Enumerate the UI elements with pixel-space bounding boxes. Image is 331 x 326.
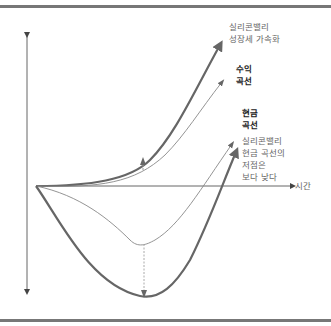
sv-cash-label: 실리콘밸리 현금 곡선의 저점은 보다 낮다 <box>242 135 285 183</box>
sv-growth-curve <box>36 45 220 186</box>
sv-cash-label-line-3: 저점은 <box>242 159 285 171</box>
cash-label: 현금 곡선 <box>242 107 258 131</box>
revenue-label: 수익 곡선 <box>236 63 252 87</box>
sv-cash-label-line-2: 현금 곡선의 <box>242 147 285 159</box>
revenue-curve <box>36 82 222 186</box>
x-axis-label: 시간 <box>295 180 311 192</box>
sv-cash-curve <box>36 152 236 297</box>
sv-growth-label: 실리콘밸리 성장세 가속화 <box>229 21 280 45</box>
revenue-label-line-1: 수익 <box>236 63 252 75</box>
sv-growth-label-line-2: 성장세 가속화 <box>229 33 280 45</box>
sv-cash-label-line-1: 실리콘밸리 <box>242 135 285 147</box>
cash-label-line-1: 현금 <box>242 107 258 119</box>
sv-cash-label-line-4: 보다 낮다 <box>242 171 285 183</box>
revenue-label-line-2: 곡선 <box>236 75 252 87</box>
sv-growth-label-line-1: 실리콘밸리 <box>229 21 280 33</box>
cash-label-line-2: 곡선 <box>242 119 258 131</box>
